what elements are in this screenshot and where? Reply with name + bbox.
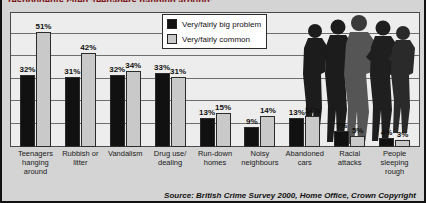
x-axis-label: People sleeping rough [372, 149, 417, 176]
chart-headline: respondents cited 'teenagers hanging aro… [8, 0, 212, 2]
legend-item-common: Very/fairly common [167, 33, 261, 45]
bar-value-label: 14% [305, 106, 321, 115]
x-axis-label: Noisy neighbours [237, 149, 282, 176]
bar: 34% [126, 71, 141, 148]
bar-value-label: 5% [352, 126, 364, 135]
bar-value-label: 13% [199, 108, 215, 117]
bar-value-label: 51% [35, 22, 51, 31]
bottom-rule [2, 201, 424, 203]
bar-value-label: 34% [125, 61, 141, 70]
bar-value-label: 33% [154, 63, 170, 72]
bar-group: 13%14% [282, 12, 327, 147]
legend-swatch-common [167, 34, 177, 44]
bar: 33% [155, 73, 170, 147]
x-axis-label: Rubbish or litter [58, 149, 103, 176]
bar: 15% [216, 113, 231, 147]
bar: 14% [260, 116, 275, 148]
bar-value-label: 9% [246, 117, 258, 126]
legend-label-big-problem: Very/fairly big problem [182, 20, 261, 29]
legend-label-common: Very/fairly common [182, 35, 250, 44]
bar: 31% [171, 77, 186, 147]
bar-value-label: 14% [260, 106, 276, 115]
bar-value-label: 15% [215, 103, 231, 112]
bar-group: 31%42% [58, 12, 103, 147]
bar: 13% [289, 118, 304, 147]
bar-group: 32%51% [13, 12, 58, 147]
bar-value-label: 31% [64, 67, 80, 76]
bar-group: 7%5% [327, 12, 372, 147]
bar: 3% [395, 140, 410, 147]
bar: 7% [334, 131, 349, 147]
chart-card: respondents cited 'teenagers hanging aro… [0, 0, 426, 203]
chart-legend: Very/fairly big problem Very/fairly comm… [162, 14, 267, 49]
bar: 4% [379, 138, 394, 147]
bar-value-label: 7% [336, 121, 348, 130]
bar-value-label: 32% [19, 65, 35, 74]
bar-value-label: 13% [289, 108, 305, 117]
x-axis-label: Vandalism [103, 149, 148, 176]
bar: 9% [244, 127, 259, 147]
bar: 13% [200, 118, 215, 147]
bar: 42% [81, 53, 96, 148]
bar-value-label: 4% [381, 128, 393, 137]
x-axis-label: Drug use/ dealing [148, 149, 193, 176]
legend-swatch-big-problem [167, 19, 177, 29]
bar: 5% [350, 136, 365, 147]
x-axis-label: Racial attacks [327, 149, 372, 176]
bar: 31% [65, 77, 80, 147]
source-note: Source: British Crime Survey 2000, Home … [164, 191, 416, 200]
x-axis-labels: Teenagers hanging aroundRubbish or litte… [10, 149, 420, 176]
bar-group: 32%34% [103, 12, 148, 147]
x-axis-label: Run-down homes [193, 149, 238, 176]
x-axis-label: Abandoned cars [282, 149, 327, 176]
bar-group: 4%3% [372, 12, 417, 147]
x-axis-label: Teenagers hanging around [13, 149, 58, 176]
bar-value-label: 31% [170, 67, 186, 76]
bar: 14% [305, 116, 320, 148]
bar-value-label: 3% [397, 130, 409, 139]
bar: 32% [110, 75, 125, 147]
bar: 32% [20, 75, 35, 147]
bar: 51% [36, 32, 51, 147]
legend-item-big-problem: Very/fairly big problem [167, 18, 261, 30]
bar-value-label: 32% [109, 65, 125, 74]
bar-value-label: 42% [80, 43, 96, 52]
